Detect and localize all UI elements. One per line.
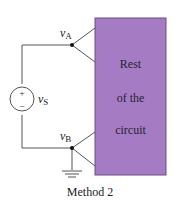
node-a-dot [70,43,74,47]
source-minus-sign: – [19,100,25,110]
box-label-line-1: Rest [120,57,142,71]
ground-icon [62,171,82,177]
node-b-label: vB [60,129,71,144]
wire-node-a-lower [72,45,95,62]
source-plus-sign: + [19,88,24,98]
node-a-label: vA [60,26,72,41]
box-label-line-3: circuit [115,123,146,137]
wire-top [22,45,72,84]
source-label: vS [38,92,48,107]
wire-node-b-upper [72,132,95,148]
voltage-source-icon: + – [10,87,34,111]
wire-node-b-lower [72,148,95,166]
figure-caption: Method 2 [67,185,113,199]
wire-node-a-upper [72,28,95,45]
node-b-dot [70,146,74,150]
box-label-line-2: of the [117,91,145,105]
circuit-diagram: Rest of the circuit vA vB + – vS Method … [0,0,181,203]
